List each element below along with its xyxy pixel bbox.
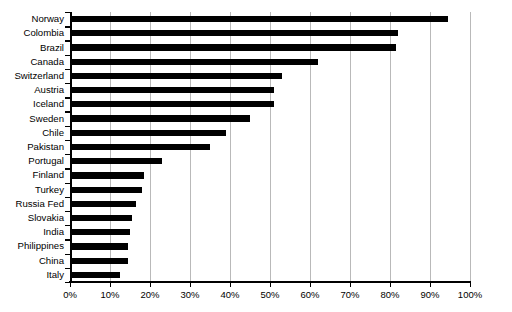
x-axis-tick: [470, 282, 471, 287]
bar: [70, 201, 136, 207]
y-axis-tick: [65, 140, 70, 141]
y-axis-category-label: Philippines: [0, 240, 64, 251]
y-axis-category-label: Italy: [0, 269, 64, 280]
y-axis-tick: [65, 268, 70, 269]
chart-title: [0, 0, 512, 3]
y-axis-category-label: Turkey: [0, 184, 64, 195]
y-axis-category-label: Colombia: [0, 27, 64, 38]
bar: [70, 16, 448, 22]
bar: [70, 59, 318, 65]
x-axis-tick: [110, 282, 111, 287]
y-axis-tick: [65, 40, 70, 41]
bar: [70, 87, 274, 93]
y-axis-tick: [65, 254, 70, 255]
y-axis-tick: [65, 211, 70, 212]
y-axis-category-label: India: [0, 226, 64, 237]
x-gridline: [470, 12, 471, 282]
y-axis-category-label: China: [0, 255, 64, 266]
bar: [70, 172, 144, 178]
y-axis-tick: [65, 55, 70, 56]
y-axis-category-label: Chile: [0, 127, 64, 138]
plot-area: [70, 12, 470, 282]
y-axis-category-label: Switzerland: [0, 70, 64, 81]
bar: [70, 73, 282, 79]
y-axis-category-label: Slovakia: [0, 212, 64, 223]
x-axis-tick-label: 10%: [88, 289, 132, 300]
bar: [70, 115, 250, 121]
x-axis-tick-label: 30%: [168, 289, 212, 300]
y-axis-tick: [65, 83, 70, 84]
y-axis-category-label: Norway: [0, 13, 64, 24]
x-axis-tick: [390, 282, 391, 287]
x-gridline: [350, 12, 351, 282]
x-axis-tick-label: 70%: [328, 289, 372, 300]
bar: [70, 101, 274, 107]
bar: [70, 229, 130, 235]
x-gridline: [310, 12, 311, 282]
bar: [70, 243, 128, 249]
y-axis-tick: [65, 126, 70, 127]
y-axis-tick: [65, 197, 70, 198]
y-axis-tick: [65, 26, 70, 27]
bar: [70, 272, 120, 278]
x-axis-tick-label: 100%: [448, 289, 492, 300]
bar: [70, 144, 210, 150]
x-axis-tick: [430, 282, 431, 287]
x-axis-tick: [350, 282, 351, 287]
x-axis-tick-label: 40%: [208, 289, 252, 300]
y-axis-tick: [65, 111, 70, 112]
y-axis-category-label: Canada: [0, 56, 64, 67]
x-axis-tick-label: 90%: [408, 289, 452, 300]
x-gridline: [230, 12, 231, 282]
x-gridline: [390, 12, 391, 282]
y-axis-tick: [65, 97, 70, 98]
y-axis-tick: [65, 183, 70, 184]
x-axis-tick: [270, 282, 271, 287]
x-axis-tick: [230, 282, 231, 287]
x-axis-tick-label: 50%: [248, 289, 292, 300]
y-axis-tick: [65, 69, 70, 70]
y-axis-tick: [65, 225, 70, 226]
y-axis-category-label: Austria: [0, 84, 64, 95]
bar: [70, 158, 162, 164]
bar: [70, 215, 132, 221]
x-axis-tick: [70, 282, 71, 287]
y-axis-category-labels: NorwayColombiaBrazilCanadaSwitzerlandAus…: [0, 12, 64, 282]
y-axis-category-label: Brazil: [0, 42, 64, 53]
x-axis-tick: [150, 282, 151, 287]
bar: [70, 130, 226, 136]
x-axis-tick: [190, 282, 191, 287]
y-axis-category-label: Portugal: [0, 155, 64, 166]
y-axis-tick: [65, 12, 70, 13]
bar: [70, 30, 398, 36]
bar: [70, 187, 142, 193]
bar: [70, 44, 396, 50]
x-axis-tick: [310, 282, 311, 287]
y-axis-category-label: Russia Fed: [0, 198, 64, 209]
x-axis-tick-label: 60%: [288, 289, 332, 300]
y-axis-tick: [65, 282, 70, 283]
y-axis-category-label: Pakistan: [0, 141, 64, 152]
x-gridline: [430, 12, 431, 282]
y-axis-tick: [65, 168, 70, 169]
x-axis-tick-label: 20%: [128, 289, 172, 300]
y-axis-tick: [65, 154, 70, 155]
y-axis-category-label: Sweden: [0, 113, 64, 124]
x-axis-tick-label: 0%: [48, 289, 92, 300]
bar: [70, 258, 128, 264]
x-gridline: [270, 12, 271, 282]
y-axis-tick: [65, 239, 70, 240]
y-axis-category-label: Finland: [0, 169, 64, 180]
y-axis-category-label: Iceland: [0, 98, 64, 109]
bar-chart: NorwayColombiaBrazilCanadaSwitzerlandAus…: [0, 0, 512, 312]
x-axis-tick-label: 80%: [368, 289, 412, 300]
